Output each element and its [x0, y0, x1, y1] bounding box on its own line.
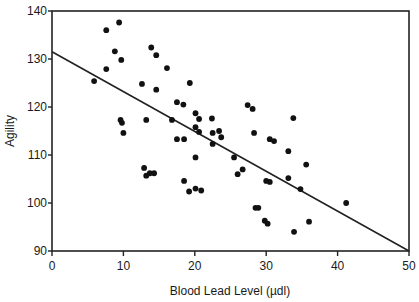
data-point — [231, 155, 237, 161]
data-point — [193, 186, 199, 192]
data-point — [298, 186, 304, 192]
data-point — [271, 138, 277, 144]
data-point — [251, 130, 257, 136]
data-point — [181, 178, 187, 184]
regression-line — [52, 52, 409, 251]
y-tick-label: 120 — [27, 100, 47, 114]
data-point — [174, 99, 180, 105]
data-point — [103, 27, 109, 33]
data-point — [121, 130, 127, 136]
data-point — [210, 141, 216, 147]
data-point — [103, 66, 109, 72]
data-point — [141, 165, 147, 171]
data-point — [245, 102, 251, 108]
data-point — [112, 48, 118, 54]
data-point — [235, 171, 241, 177]
data-point — [210, 130, 216, 136]
plot-area-border — [52, 11, 409, 251]
data-point — [343, 200, 349, 206]
data-point — [164, 65, 170, 71]
data-point — [148, 45, 154, 51]
x-tick-label: 40 — [331, 259, 345, 273]
data-point — [169, 117, 175, 123]
data-point — [255, 205, 261, 211]
data-point — [250, 106, 256, 112]
data-point — [186, 189, 192, 195]
plot-frame — [52, 11, 409, 251]
data-point — [196, 116, 202, 122]
data-point — [91, 78, 97, 84]
data-point — [209, 116, 215, 122]
data-point — [306, 219, 312, 225]
data-point — [187, 80, 193, 86]
y-tick-label: 110 — [28, 148, 47, 162]
data-point — [240, 167, 246, 173]
data-point — [193, 124, 199, 130]
data-point — [151, 170, 157, 176]
data-point — [196, 129, 202, 135]
data-point — [218, 134, 224, 140]
y-tick-label: 140 — [27, 4, 47, 18]
data-point — [153, 52, 159, 58]
x-tick-label: 50 — [402, 259, 416, 273]
data-point — [174, 136, 180, 142]
data-point — [265, 221, 271, 227]
scatter-chart: 90100110120130140 01020304050 Blood Lead… — [0, 0, 419, 302]
y-axis: 90100110120130140 — [27, 4, 52, 258]
data-point — [285, 148, 291, 154]
y-tick-label: 90 — [34, 244, 48, 258]
x-axis: 01020304050 — [49, 251, 416, 273]
data-point — [290, 115, 296, 121]
data-point — [181, 136, 187, 142]
data-point — [116, 20, 122, 26]
data-points — [91, 20, 349, 235]
x-axis-title: Blood Lead Level (µdl) — [170, 284, 290, 298]
data-point — [267, 179, 273, 185]
y-axis-title: Agility — [3, 115, 17, 147]
data-point — [198, 188, 204, 194]
data-point — [153, 87, 159, 93]
y-tick-label: 100 — [27, 196, 47, 210]
data-point — [216, 128, 222, 134]
x-tick-label: 20 — [188, 259, 202, 273]
data-point — [303, 162, 309, 168]
y-tick-label: 130 — [27, 52, 47, 66]
data-point — [291, 229, 297, 235]
data-point — [193, 110, 199, 116]
x-tick-label: 0 — [49, 259, 56, 273]
data-point — [119, 120, 125, 126]
x-tick-label: 10 — [117, 259, 131, 273]
data-point — [285, 175, 291, 181]
data-point — [180, 102, 186, 108]
data-point — [193, 155, 199, 161]
data-point — [118, 57, 124, 63]
x-tick-label: 30 — [260, 259, 274, 273]
data-point — [143, 117, 149, 123]
data-point — [139, 81, 145, 87]
